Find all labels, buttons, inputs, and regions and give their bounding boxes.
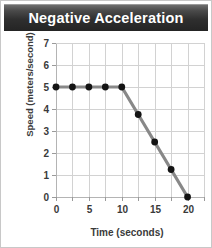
axis-lines xyxy=(57,44,205,198)
x-tick-label: 0 xyxy=(54,204,60,215)
y-tick-label: 6 xyxy=(43,60,49,71)
y-tick-label: 4 xyxy=(43,104,49,115)
y-tick-labels: 01234567 xyxy=(43,38,49,203)
data-point xyxy=(85,84,92,91)
data-point xyxy=(102,84,109,91)
series-line xyxy=(56,87,188,197)
chart-figure: Negative Acceleration Speed (meters/seco… xyxy=(0,0,212,248)
chart-title-bar: Negative Acceleration xyxy=(4,4,208,31)
x-tick-label: 10 xyxy=(117,204,129,215)
x-tick-label: 15 xyxy=(150,204,162,215)
data-point xyxy=(118,84,125,91)
x-tick-labels: 05101520 xyxy=(54,204,195,215)
chart-title: Negative Acceleration xyxy=(28,10,183,26)
data-point xyxy=(53,84,60,91)
y-tick-label: 2 xyxy=(43,148,49,159)
y-tick-label: 3 xyxy=(43,126,49,137)
y-tick-label: 5 xyxy=(43,82,49,93)
x-tick-label: 5 xyxy=(87,204,93,215)
data-point xyxy=(151,139,158,146)
data-series xyxy=(56,87,188,197)
data-markers xyxy=(53,84,191,201)
x-tick-label: 20 xyxy=(183,204,195,215)
data-point xyxy=(168,166,175,173)
y-tick-label: 7 xyxy=(43,38,49,49)
data-point xyxy=(135,111,142,118)
gridlines xyxy=(56,43,205,198)
data-point xyxy=(184,194,191,201)
data-point xyxy=(69,84,76,91)
plot-area: 01234567 05101520 xyxy=(1,33,212,229)
y-tick-label: 0 xyxy=(43,192,49,203)
tick-marks xyxy=(52,44,205,202)
y-tick-label: 1 xyxy=(43,170,49,181)
